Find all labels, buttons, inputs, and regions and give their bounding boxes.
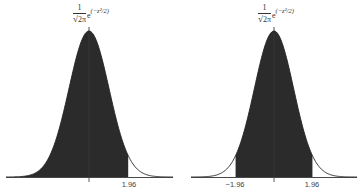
left-tick-label-1-96: 1.96 [122, 180, 137, 189]
right-formula-exponent: (−z²/2) [276, 7, 294, 14]
right-formula-fraction: 1 √2π [258, 4, 271, 24]
right-formula-exp: e(−z²/2) [272, 8, 294, 20]
right-panel [191, 27, 357, 182]
right-sqrt-body: 2π [263, 15, 271, 24]
left-formula-exponent: (−z²/2) [91, 7, 109, 14]
left-sqrt-body: 2π [78, 15, 86, 24]
right-tick-label-neg-1-96: −1.96 [226, 180, 245, 189]
right-tick-label-1-96: 1.96 [305, 180, 320, 189]
left-density-formula: 1 √2π e(−z²/2) [73, 4, 109, 24]
left-formula-fraction: 1 √2π [73, 4, 86, 24]
left-shaded-area [9, 31, 128, 177]
left-formula-denominator: √2π [73, 13, 86, 24]
normal-distribution-charts [0, 0, 360, 193]
right-density-formula: 1 √2π e(−z²/2) [258, 4, 294, 24]
right-formula-denominator: √2π [258, 13, 271, 24]
left-panel [6, 27, 173, 182]
left-formula-exp: e(−z²/2) [87, 8, 109, 20]
left-formula-numerator: 1 [73, 4, 86, 13]
right-formula-numerator: 1 [258, 4, 271, 13]
